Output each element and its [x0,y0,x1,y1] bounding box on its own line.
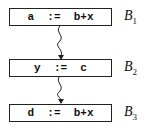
block-b2: y := c [9,59,112,77]
block-b1-label: B1 [124,8,137,26]
block-b1-code: a := b+x [27,11,93,23]
block-b3-code: d := b+x [27,107,93,119]
block-b1: a := b+x [9,8,112,26]
edge-b1-b2 [58,26,62,56]
edge-b2-b3 [58,76,62,100]
block-b2-code: y := c [34,62,87,74]
block-b3-label: B3 [124,104,137,122]
block-b3: d := b+x [9,104,112,122]
block-b2-label: B2 [124,59,137,77]
